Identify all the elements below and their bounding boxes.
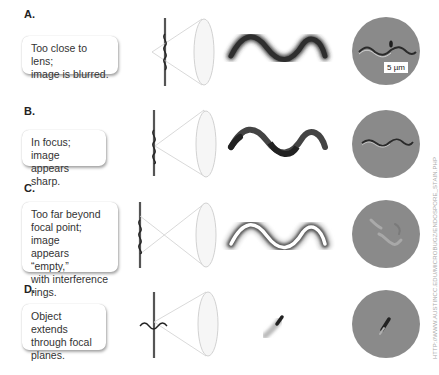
panel-d-caption: Object extends through focal planes.: [22, 304, 106, 350]
panel-a-caption: Too close to lens; image is blurred.: [22, 36, 118, 74]
panel-b-caption: In focus; image appears sharp.: [22, 130, 106, 166]
empty-ring-object-illustration-icon: [225, 218, 330, 258]
extended-object-illustration-icon: [260, 312, 290, 342]
caption-line: appears sharp.: [31, 162, 97, 188]
blurred-object-illustration-icon: [225, 30, 330, 70]
caption-line: with interference: [31, 273, 109, 286]
scale-bar: 5 µm: [384, 62, 408, 73]
micrograph-b-spirochete-icon: [360, 135, 415, 149]
panel-a-label: A.: [24, 8, 35, 20]
lens-diagram-a-icon: [150, 16, 220, 88]
lens-diagram-b-icon: [148, 108, 220, 178]
caption-line: Too far beyond: [31, 208, 109, 221]
sharp-object-illustration-icon: [225, 125, 330, 163]
caption-line: focal point; image: [31, 221, 109, 247]
image-credit-text: HTTP://WWW.AUSTINCC.EDU/MICROBUGZ/ENDOSP…: [432, 138, 438, 375]
caption-line: appears “empty,”: [31, 247, 109, 273]
lens-diagram-c-icon: [134, 200, 220, 270]
caption-line: Too close to lens;: [31, 42, 109, 68]
caption-line: In focus; image: [31, 136, 97, 162]
caption-line: planes.: [31, 349, 97, 362]
caption-line: through focal: [31, 336, 97, 349]
panel-d-label: D.: [24, 283, 35, 295]
lens-diagram-d-icon: [138, 290, 220, 360]
caption-line: image is blurred.: [31, 68, 109, 81]
micrograph-d-spot-icon: [376, 312, 396, 338]
panel-c-label: C.: [24, 182, 35, 194]
micrograph-a-spirochete-icon: [357, 40, 417, 60]
caption-line: rings.: [31, 286, 109, 299]
micrograph-c-blurred-object-icon: [365, 212, 410, 257]
image-credit: HTTP://WWW.AUSTINCC.EDU/MICROBUGZ/ENDOSP…: [425, 135, 437, 375]
panel-b-label: B.: [24, 105, 35, 117]
panel-c-caption: Too far beyond focal point; image appear…: [22, 202, 118, 272]
caption-line: Object extends: [31, 310, 97, 336]
